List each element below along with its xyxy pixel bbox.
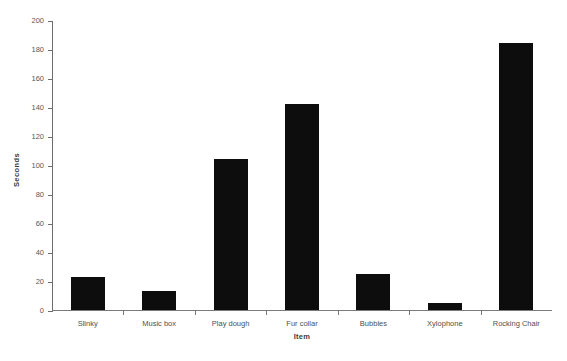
y-axis-tick-label: 20 [18, 277, 44, 286]
x-axis-tick-label: Play dough [212, 319, 250, 328]
y-axis-tick [48, 166, 53, 167]
y-axis-tick [48, 137, 53, 138]
x-axis-line [52, 310, 552, 311]
y-axis-tick [48, 311, 53, 312]
y-axis-tick-label: 60 [18, 219, 44, 228]
y-axis-tick [48, 224, 53, 225]
x-axis-tick [338, 311, 339, 315]
x-axis-tick-label: Music box [142, 319, 176, 328]
x-axis-title: Item [52, 332, 552, 341]
bar [428, 303, 462, 310]
x-axis-tick [409, 311, 410, 315]
bar [214, 159, 248, 310]
y-axis-tick-label: 100 [18, 161, 44, 170]
x-axis-tick-label: Slinky [78, 319, 98, 328]
y-axis-tick [48, 108, 53, 109]
x-axis-tick-label: Xylophone [427, 319, 462, 328]
y-axis-tick [48, 21, 53, 22]
x-axis-tick-label: Bubbles [360, 319, 387, 328]
x-axis-tick [123, 311, 124, 315]
x-axis-tick-label: Fur collar [286, 319, 317, 328]
bar [499, 43, 533, 310]
y-axis-tick [48, 79, 53, 80]
y-axis-tick [48, 50, 53, 51]
y-axis-tick [48, 195, 53, 196]
y-axis-tick-label: 140 [18, 103, 44, 112]
y-axis-tick-label: 40 [18, 248, 44, 257]
bar [71, 277, 105, 310]
plot-area: 020406080100120140160180200 SlinkyMusic … [52, 21, 552, 311]
x-axis-tick [266, 311, 267, 315]
bar [285, 104, 319, 310]
y-axis-tick [48, 282, 53, 283]
x-axis-tick [195, 311, 196, 315]
y-axis-tick-label: 80 [18, 190, 44, 199]
bar [356, 274, 390, 310]
y-axis-tick [48, 253, 53, 254]
x-axis-tick-label: Rocking Chair [493, 319, 540, 328]
bar [142, 291, 176, 310]
bar-chart-figure: Seconds 020406080100120140160180200 Slin… [0, 0, 567, 361]
y-axis-tick-label: 200 [18, 16, 44, 25]
y-axis-tick-label: 180 [18, 45, 44, 54]
y-axis-tick-label: 160 [18, 74, 44, 83]
y-axis-tick-label: 0 [18, 306, 44, 315]
y-axis-tick-label: 120 [18, 132, 44, 141]
y-axis-title-label: Seconds [12, 153, 21, 187]
x-axis-tick [481, 311, 482, 315]
